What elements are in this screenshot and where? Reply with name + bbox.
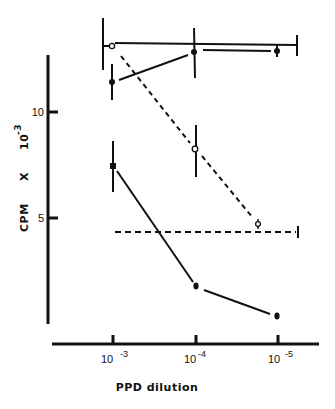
open-circle-marker xyxy=(256,222,261,227)
svg-text:10: 10 xyxy=(101,353,113,365)
svg-text:-4: -4 xyxy=(198,349,206,359)
open-circle-marker xyxy=(192,146,198,152)
x-tick-label-1: 10 -3 xyxy=(101,349,128,365)
x-axis-title: PPD dilution xyxy=(116,381,199,394)
filled-circle-marker xyxy=(109,79,115,85)
svg-text:-5: -5 xyxy=(285,349,293,359)
y-tick-label-5: 5 xyxy=(38,212,44,224)
series-filled-square xyxy=(110,141,280,319)
series-dashed-baseline xyxy=(115,226,298,238)
x-tick-label-2: 10 -4 xyxy=(184,349,206,365)
series-filled-circle xyxy=(109,28,280,100)
svg-text:-3: -3 xyxy=(120,349,128,359)
filled-circle-marker xyxy=(274,48,280,54)
filled-square-marker xyxy=(110,163,116,169)
y-title-cpm: CPM xyxy=(18,203,31,232)
x-tick-label-3: 10 -5 xyxy=(268,349,293,365)
y-title-exp: -3 xyxy=(13,124,23,135)
filled-circle-marker xyxy=(274,313,279,320)
filled-circle-marker xyxy=(191,49,197,55)
filled-circle-marker xyxy=(193,283,198,290)
series-open-circle-flat xyxy=(103,18,297,70)
y-axis-title: CPM X 10 -3 xyxy=(13,124,31,232)
open-circle-marker xyxy=(109,43,114,48)
svg-text:10: 10 xyxy=(184,353,196,365)
series-open-circle-dashed xyxy=(121,56,260,229)
chart: 10 5 CPM X 10 -3 10 -3 10 -4 10 -5 PPD d… xyxy=(0,0,335,409)
y-tick-label-10: 10 xyxy=(32,106,44,118)
y-title-x: X xyxy=(18,172,31,181)
y-title-base: 10 xyxy=(18,134,31,150)
svg-text:10: 10 xyxy=(268,353,280,365)
